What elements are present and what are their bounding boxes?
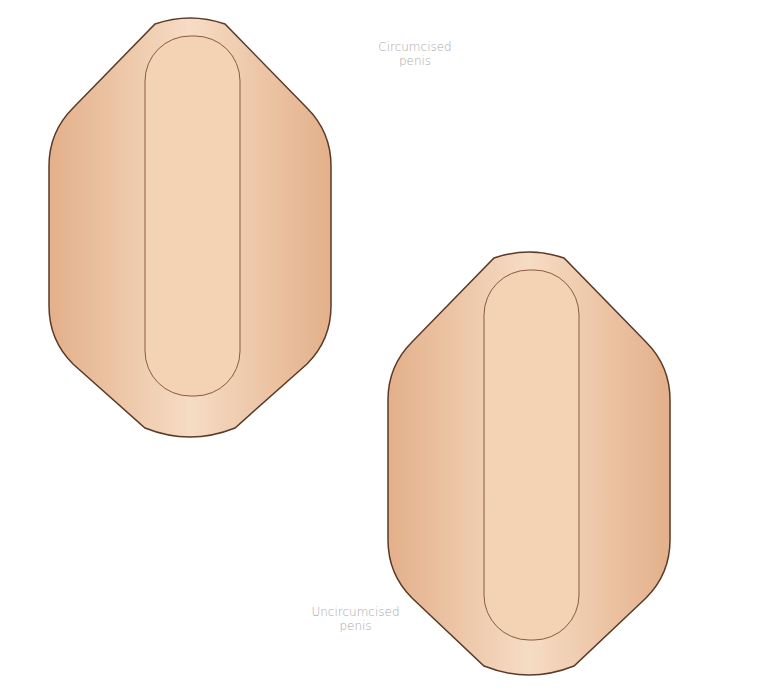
label-line-1: Uncircumcised xyxy=(298,605,413,619)
label-line-2: penis xyxy=(298,619,413,633)
circumcised-illustration-panel xyxy=(45,16,335,441)
shaded-form xyxy=(145,36,240,396)
circumcised-label: Circumcised penis xyxy=(360,40,470,69)
label-line-1: Circumcised xyxy=(360,40,470,54)
uncircumcised-illustration-panel xyxy=(384,250,674,680)
uncircumcised-label: Uncircumcised penis xyxy=(298,605,413,634)
shaded-form xyxy=(484,270,579,640)
label-line-2: penis xyxy=(360,54,470,68)
